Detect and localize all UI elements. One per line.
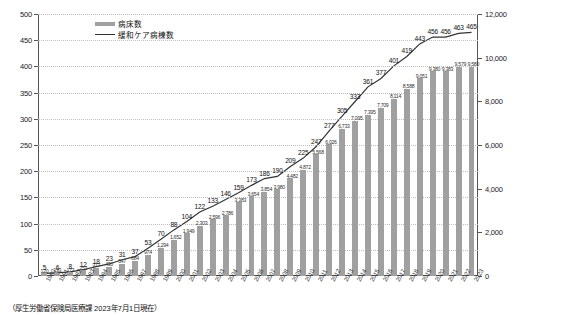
bar-value-label: 3,980 xyxy=(273,184,284,190)
right-tick-mark xyxy=(478,14,482,15)
left-tick-mark xyxy=(34,14,38,15)
line-value-label: 104 xyxy=(182,213,192,220)
line-value-label: 37 xyxy=(132,248,139,255)
bar-2007 xyxy=(261,192,267,276)
bar-2006 xyxy=(249,196,255,276)
right-tick-mark xyxy=(478,145,482,146)
line-value-label: 377 xyxy=(376,69,386,76)
left-axis-tick-label: 300 xyxy=(2,114,32,123)
left-axis-tick-label: 350 xyxy=(2,88,32,97)
line-value-label: 88 xyxy=(170,221,177,228)
gridline xyxy=(38,145,478,146)
gridline xyxy=(38,40,478,41)
bar-2005 xyxy=(236,202,242,276)
left-tick-mark xyxy=(34,224,38,225)
line-value-label: 247 xyxy=(311,138,321,145)
line-value-label: 122 xyxy=(195,203,205,210)
gridline xyxy=(38,14,478,15)
line-value-label: 146 xyxy=(220,190,230,197)
line-value-label: 225 xyxy=(298,149,308,156)
line-value-label: 6 xyxy=(56,264,59,271)
line-value-label: 23 xyxy=(106,255,113,262)
bar-2023 xyxy=(469,67,475,276)
gridline xyxy=(38,93,478,94)
right-axis-tick-label: 10,000 xyxy=(485,53,525,62)
bar-value-label: 1,652 xyxy=(170,234,181,240)
line-value-label: 190 xyxy=(272,167,282,174)
right-tick-mark xyxy=(478,189,482,190)
line-value-label: 456 xyxy=(428,28,438,35)
bar-2003 xyxy=(210,219,216,276)
legend-bar-label: 病床数 xyxy=(118,18,142,29)
left-tick-mark xyxy=(34,93,38,94)
chart-caption: （厚生労働省保険局医療課 2023年7月1日現在） xyxy=(8,302,161,313)
bar-2014 xyxy=(352,121,358,276)
bar-value-label: 3,854 xyxy=(260,186,271,192)
bar-value-label: 7,095 xyxy=(351,115,362,121)
left-axis-tick-label: 500 xyxy=(2,10,32,19)
bar-2010 xyxy=(300,170,306,276)
bar-value-label: 9,383 xyxy=(442,66,453,72)
bar-value-label: 8,588 xyxy=(403,83,414,89)
right-axis-tick-label: 8,000 xyxy=(485,97,525,106)
bar-value-label: 3,654 xyxy=(248,191,259,197)
right-tick-mark xyxy=(478,58,482,59)
line-value-label: 12 xyxy=(80,261,87,268)
bar-value-label: 7,709 xyxy=(377,102,388,108)
line-value-label: 361 xyxy=(363,78,373,85)
line-value-label: 305 xyxy=(337,107,347,114)
bar-value-label: 3,383 xyxy=(235,197,246,203)
left-axis-tick-label: 450 xyxy=(2,36,32,45)
left-axis-tick-label: 400 xyxy=(2,62,32,71)
bar-2013 xyxy=(339,129,345,276)
left-tick-mark xyxy=(34,250,38,251)
legend-item-bar: 病床数 xyxy=(95,18,174,29)
bar-value-label: 2,596 xyxy=(209,214,220,220)
right-tick-mark xyxy=(478,232,482,233)
line-value-label: 18 xyxy=(93,258,100,265)
line-value-label: 173 xyxy=(246,176,256,183)
line-value-label: 443 xyxy=(415,35,425,42)
line-value-label: 70 xyxy=(157,230,164,237)
bar-value-label: 7,395 xyxy=(364,109,375,115)
left-axis-tick-label: 100 xyxy=(2,219,32,228)
bar-value-label: 9,051 xyxy=(416,73,427,79)
right-axis-tick-label: 6,000 xyxy=(485,141,525,150)
gridline xyxy=(38,171,478,172)
left-tick-mark xyxy=(34,276,38,277)
line-value-label: 209 xyxy=(285,157,295,164)
gridline xyxy=(38,119,478,120)
right-axis-tick-label: 12,000 xyxy=(485,10,525,19)
legend-item-line: 緩和ケア病棟数 xyxy=(95,29,174,40)
left-axis-tick-label: 200 xyxy=(2,167,32,176)
bar-2002 xyxy=(197,226,203,276)
legend-bar-swatch-icon xyxy=(95,22,115,26)
gridline xyxy=(38,250,478,251)
right-axis-tick-label: 2,000 xyxy=(485,228,525,237)
left-tick-mark xyxy=(34,171,38,172)
legend-line-swatch-icon xyxy=(95,34,115,35)
bar-2022 xyxy=(456,67,462,276)
left-tick-mark xyxy=(34,119,38,120)
line-value-label: 333 xyxy=(350,93,360,100)
chart-container: 1201331732533774305476849741,2941,6521,9… xyxy=(0,0,569,315)
bar-value-label: 9,579 xyxy=(455,61,466,67)
bar-2016 xyxy=(378,108,384,276)
left-tick-mark xyxy=(34,145,38,146)
left-tick-mark xyxy=(34,66,38,67)
bar-value-label: 1,949 xyxy=(183,228,194,234)
gridline xyxy=(38,224,478,225)
line-value-label: 186 xyxy=(259,170,269,177)
bar-2011 xyxy=(313,154,319,276)
bar-2021 xyxy=(443,71,449,276)
bar-2020 xyxy=(430,71,436,276)
chart-legend: 病床数 緩和ケア病棟数 xyxy=(95,18,174,40)
bar-value-label: 6,026 xyxy=(325,139,336,145)
bar-value-label: 684 xyxy=(131,255,139,261)
line-value-label: 53 xyxy=(145,239,152,246)
line-value-label: 5 xyxy=(43,264,46,271)
bar-value-label: 4,872 xyxy=(299,164,310,170)
line-value-label: 31 xyxy=(119,251,126,258)
bar-2012 xyxy=(326,144,332,276)
bar-value-label: 8,114 xyxy=(390,93,401,99)
